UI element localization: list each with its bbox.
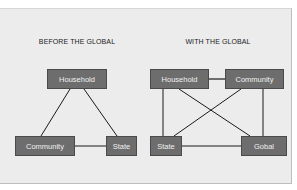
title-with-global: WITH THE GLOBAL xyxy=(185,38,250,45)
edge-community-state-right xyxy=(174,89,241,136)
node-state-before: State xyxy=(106,136,137,156)
edge-household-community-left xyxy=(41,89,70,136)
edge-household-global-right xyxy=(179,89,250,136)
title-before-global: BEFORE THE GLOBAL xyxy=(39,38,115,45)
edges-layer xyxy=(0,0,297,190)
node-community-before: Community xyxy=(15,136,75,156)
node-household-before: Household xyxy=(47,69,107,89)
node-community-with: Community xyxy=(225,69,284,89)
node-global-with: Gobal xyxy=(241,136,287,156)
node-state-with: State xyxy=(150,136,182,156)
edge-household-state-left xyxy=(84,89,117,136)
node-household-with: Household xyxy=(150,69,209,89)
